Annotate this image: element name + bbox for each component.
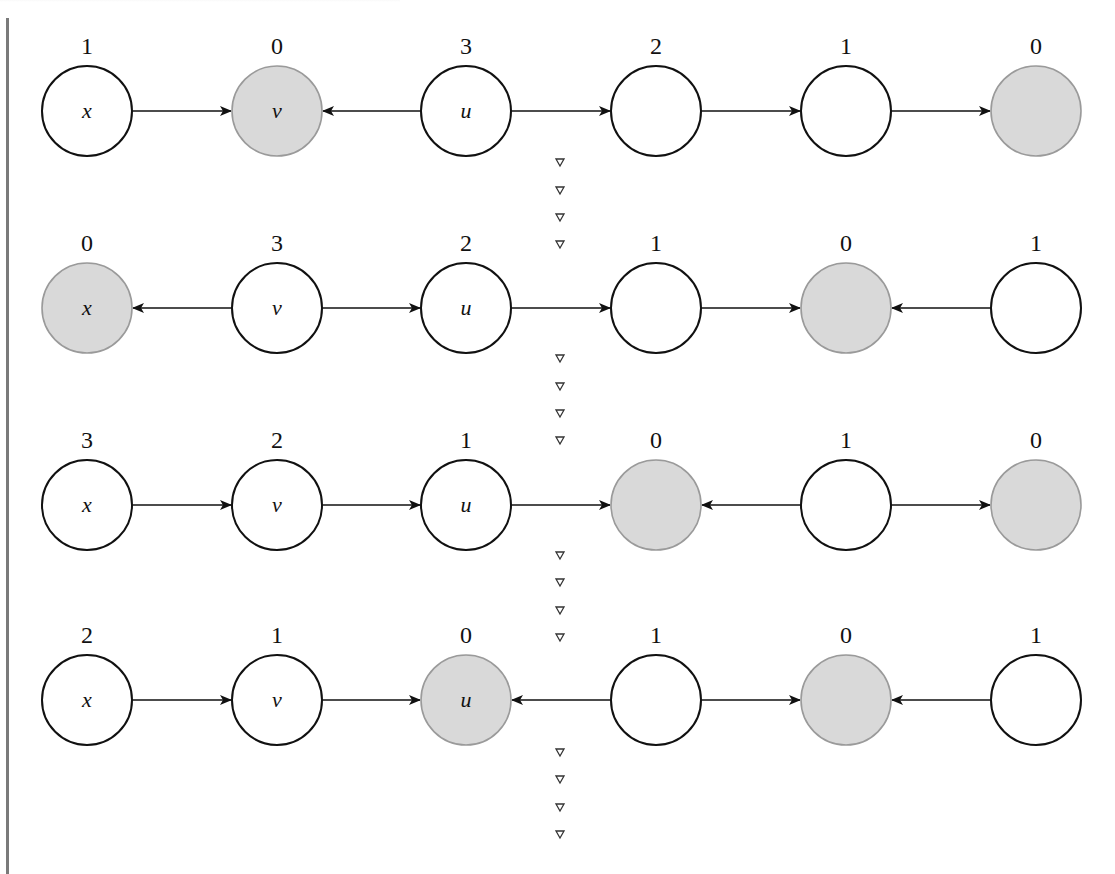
node-name-label: u — [461, 492, 472, 517]
graph-node-x: x0 — [42, 230, 132, 353]
node-value-label: 1 — [1030, 622, 1042, 648]
down-triangle-icon — [556, 410, 564, 417]
node-name-label: v — [272, 295, 282, 320]
node-value-label: 3 — [81, 427, 93, 453]
node-value-label: 1 — [460, 427, 472, 453]
down-triangle-icon — [556, 634, 564, 641]
graph-node-x: x2 — [42, 622, 132, 745]
graph-node-u: u0 — [421, 622, 511, 745]
diagram-row-4: x2v1u0101 — [42, 622, 1081, 838]
node-value-label: 0 — [271, 33, 283, 59]
graph-node: 0 — [991, 33, 1081, 156]
node-value-label: 1 — [840, 427, 852, 453]
node-value-label: 2 — [271, 427, 283, 453]
node-name-label: v — [272, 492, 282, 517]
diagram-row-3: x3v2u1010 — [42, 427, 1081, 641]
graph-node-u: u3 — [421, 33, 511, 156]
node-circle-shaded — [801, 263, 891, 353]
node-value-label: 0 — [1030, 427, 1042, 453]
down-triangle-icon — [556, 214, 564, 221]
graph-node-v: v3 — [232, 230, 322, 353]
node-circle-shaded — [991, 66, 1081, 156]
continuation-triangles — [556, 355, 564, 444]
node-name-label: x — [81, 98, 92, 123]
node-value-label: 0 — [1030, 33, 1042, 59]
graph-node-u: u2 — [421, 230, 511, 353]
down-triangle-icon — [556, 241, 564, 248]
continuation-triangles — [556, 552, 564, 641]
down-triangle-icon — [556, 552, 564, 559]
down-triangle-icon — [556, 159, 564, 166]
node-value-label: 1 — [840, 33, 852, 59]
continuation-triangles — [556, 749, 564, 838]
node-name-label: u — [461, 98, 472, 123]
down-triangle-icon — [556, 749, 564, 756]
graph-node: 1 — [991, 622, 1081, 745]
node-value-label: 3 — [460, 33, 472, 59]
down-triangle-icon — [556, 607, 564, 614]
down-triangle-icon — [556, 355, 564, 362]
down-triangle-icon — [556, 804, 564, 811]
node-value-label: 1 — [271, 622, 283, 648]
node-value-label: 1 — [81, 33, 93, 59]
node-value-label: 0 — [460, 622, 472, 648]
continuation-triangles — [556, 159, 564, 248]
node-value-label: 0 — [650, 427, 662, 453]
graph-node: 0 — [611, 427, 701, 550]
graph-node: 0 — [801, 622, 891, 745]
node-value-label: 0 — [81, 230, 93, 256]
node-circle — [991, 655, 1081, 745]
node-circle — [801, 460, 891, 550]
node-name-label: u — [461, 295, 472, 320]
node-value-label: 1 — [650, 622, 662, 648]
node-name-label: v — [272, 98, 282, 123]
down-triangle-icon — [556, 383, 564, 390]
node-value-label: 0 — [840, 622, 852, 648]
node-circle — [611, 263, 701, 353]
graph-node: 1 — [611, 622, 701, 745]
graph-node: 1 — [991, 230, 1081, 353]
node-value-label: 2 — [460, 230, 472, 256]
graph-sequence-diagram: x1v0u3210x0v3u2101x3v2u1010x2v1u0101 — [0, 0, 1115, 874]
node-value-label: 1 — [1030, 230, 1042, 256]
node-name-label: x — [81, 295, 92, 320]
node-value-label: 0 — [840, 230, 852, 256]
node-value-label: 3 — [271, 230, 283, 256]
graph-node: 1 — [611, 230, 701, 353]
node-circle — [611, 66, 701, 156]
down-triangle-icon — [556, 579, 564, 586]
node-value-label: 1 — [650, 230, 662, 256]
graph-node-x: x1 — [42, 33, 132, 156]
diagram-row-2: x0v3u2101 — [42, 230, 1081, 444]
node-circle-shaded — [611, 460, 701, 550]
graph-node-v: v2 — [232, 427, 322, 550]
node-circle — [801, 66, 891, 156]
down-triangle-icon — [556, 187, 564, 194]
node-name-label: v — [272, 687, 282, 712]
node-name-label: x — [81, 492, 92, 517]
graph-node-x: x3 — [42, 427, 132, 550]
graph-node-v: v0 — [232, 33, 322, 156]
graph-node: 0 — [991, 427, 1081, 550]
graph-node-u: u1 — [421, 427, 511, 550]
node-circle — [611, 655, 701, 745]
node-value-label: 2 — [650, 33, 662, 59]
graph-node: 1 — [801, 427, 891, 550]
down-triangle-icon — [556, 776, 564, 783]
down-triangle-icon — [556, 831, 564, 838]
graph-node: 1 — [801, 33, 891, 156]
node-value-label: 2 — [81, 622, 93, 648]
node-circle-shaded — [801, 655, 891, 745]
graph-node-v: v1 — [232, 622, 322, 745]
down-triangle-icon — [556, 437, 564, 444]
node-name-label: x — [81, 687, 92, 712]
diagram-row-1: x1v0u3210 — [42, 33, 1081, 248]
diagram-rows: x1v0u3210x0v3u2101x3v2u1010x2v1u0101 — [42, 33, 1081, 838]
node-name-label: u — [461, 687, 472, 712]
graph-node: 0 — [801, 230, 891, 353]
graph-node: 2 — [611, 33, 701, 156]
node-circle — [991, 263, 1081, 353]
node-circle-shaded — [991, 460, 1081, 550]
